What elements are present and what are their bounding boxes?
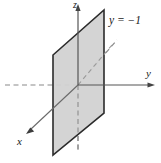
plane-diagram-figure: x y z y = −1 <box>0 0 161 163</box>
y-axis-arrowhead-icon <box>148 82 156 87</box>
x-axis-label: x <box>17 136 22 147</box>
z-axis-label: z <box>73 0 77 10</box>
y-axis-label: y <box>146 68 151 79</box>
x-axis-arrowhead-icon <box>26 127 34 134</box>
plane-equation-label: y = −1 <box>109 15 141 27</box>
